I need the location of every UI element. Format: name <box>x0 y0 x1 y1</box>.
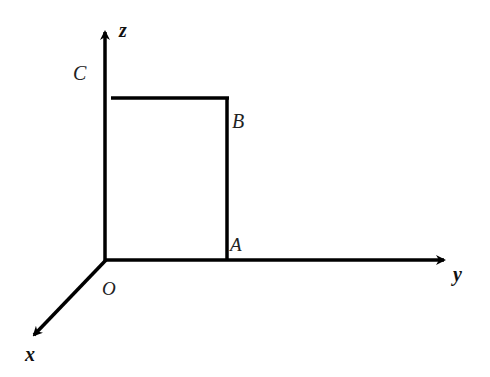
coordinate-diagram: z y x C B A O <box>0 0 490 377</box>
point-c-label: C <box>73 62 87 84</box>
y-axis-label: y <box>451 263 462 286</box>
x-axis-label: x <box>24 343 35 365</box>
z-axis-label: z <box>118 19 127 41</box>
origin-label: O <box>102 278 116 299</box>
point-b-label: B <box>232 110 244 132</box>
x-axis <box>34 260 106 335</box>
point-a-label: A <box>228 234 242 255</box>
diagram-canvas: z y x C B A O <box>0 0 490 377</box>
